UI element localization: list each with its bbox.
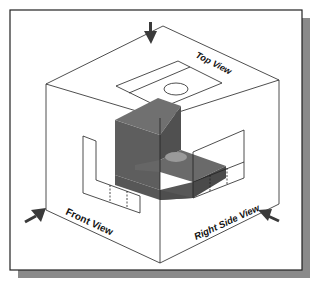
glass-box-diagram: Top View Front View Right Side View — [0, 0, 313, 283]
